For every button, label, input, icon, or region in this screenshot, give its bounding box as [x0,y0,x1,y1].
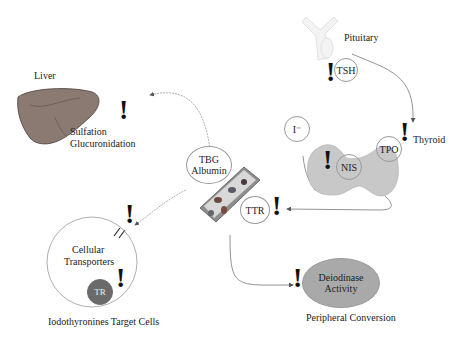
target-cells-caption: Iodothyronines Target Cells [48,316,159,327]
tbg-albumin-circle: TBG Albumin [186,146,232,184]
liver-label: Liver [34,70,56,81]
glucuronidation-label: Glucuronidation [70,138,136,149]
disruption-marker-nis: ! [323,146,332,174]
disruption-marker-cell-entry: ! [125,200,134,228]
nis-circle: NIS [336,154,362,180]
disruption-marker-tsh: ! [326,58,335,86]
disruption-marker-ttr: ! [272,192,281,220]
tsh-circle: TSH [334,58,358,82]
pituitary-label: Pituitary [344,32,378,43]
transporters-label: Transporters [64,256,114,267]
tpo-circle: TPO [376,136,402,162]
cellular-label: Cellular [72,244,104,255]
ttr-circle: TTR [240,196,270,224]
disruption-marker-tpo: ! [400,118,409,146]
disruption-marker-tr: ! [116,264,125,292]
disruption-marker-liver: ! [119,96,128,124]
thyroid-label: Thyroid [413,134,445,145]
sulfation-label: Sulfation [70,126,107,137]
disruption-marker-deiodinase: ! [293,264,302,292]
peripheral-conversion-caption: Peripheral Conversion [306,312,396,323]
deiodinase-ellipse: Deiodinase Activity [302,258,380,308]
iodide-circle: I⁻ [284,116,310,142]
tr-circle: TR [87,279,113,305]
